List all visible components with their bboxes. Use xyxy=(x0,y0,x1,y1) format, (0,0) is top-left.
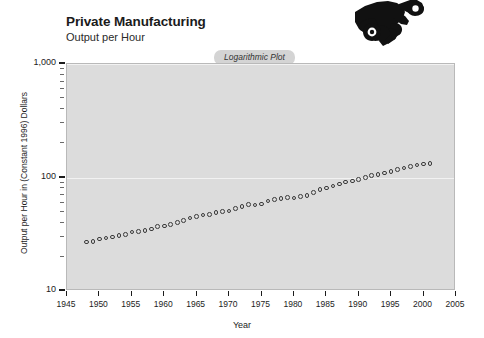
x-tick-mark xyxy=(358,291,359,296)
page-title: Private Manufacturing xyxy=(66,14,206,29)
data-point xyxy=(227,209,232,214)
data-point xyxy=(285,195,290,200)
data-point xyxy=(428,161,433,166)
x-tick-mark xyxy=(163,291,164,296)
gridline xyxy=(67,64,454,65)
data-point xyxy=(305,193,310,198)
data-point xyxy=(272,197,277,202)
data-point xyxy=(350,179,355,184)
x-tick-mark xyxy=(131,291,132,296)
data-point xyxy=(402,166,407,171)
y-tick-mark xyxy=(59,289,65,291)
data-point xyxy=(253,203,258,208)
y-tick-minor xyxy=(60,182,64,183)
data-point xyxy=(233,206,238,211)
y-tick-minor xyxy=(60,68,64,69)
data-point xyxy=(143,228,148,233)
data-point xyxy=(194,214,199,219)
plot-area xyxy=(66,63,455,290)
y-tick-minor xyxy=(60,81,64,82)
y-axis-label: Output per Hour in (Constant 1996) Dolla… xyxy=(19,63,29,283)
data-point xyxy=(337,182,342,187)
x-tick-mark xyxy=(325,291,326,296)
y-tick-minor xyxy=(60,108,64,109)
data-point xyxy=(369,173,374,178)
data-point xyxy=(91,239,96,244)
y-tick-minor xyxy=(60,74,64,75)
data-point xyxy=(149,227,154,232)
y-tick-minor xyxy=(60,97,64,98)
data-point xyxy=(220,209,225,214)
data-point xyxy=(162,224,167,229)
data-point xyxy=(298,194,303,199)
x-tick-label: 2005 xyxy=(435,299,475,309)
hand-holding-wrench-icon xyxy=(355,0,430,50)
data-point xyxy=(84,240,89,245)
data-point xyxy=(188,216,193,221)
x-tick-mark xyxy=(455,291,456,296)
data-point xyxy=(318,187,323,192)
x-tick-mark xyxy=(293,291,294,296)
data-point xyxy=(279,196,284,201)
data-point xyxy=(343,180,348,185)
data-point xyxy=(214,210,219,215)
data-point xyxy=(324,186,329,191)
data-point xyxy=(356,177,361,182)
gridline xyxy=(67,178,454,179)
data-point xyxy=(136,229,141,234)
y-tick-minor xyxy=(60,142,64,143)
y-tick-minor xyxy=(60,211,64,212)
data-point xyxy=(97,237,102,242)
y-tick-minor xyxy=(60,256,64,257)
data-point xyxy=(123,232,128,237)
data-point xyxy=(201,213,206,218)
data-point xyxy=(266,199,271,204)
y-tick-minor xyxy=(60,187,64,188)
x-tick-mark xyxy=(423,291,424,296)
data-point xyxy=(292,196,297,201)
data-point xyxy=(117,233,122,238)
data-point xyxy=(408,164,413,169)
data-point xyxy=(259,202,264,207)
chart-page: Private Manufacturing Output per Hour Lo… xyxy=(0,0,484,338)
y-tick-mark xyxy=(59,62,65,64)
data-point xyxy=(168,222,173,227)
data-point xyxy=(240,204,245,209)
data-point xyxy=(376,172,381,177)
data-point xyxy=(246,202,251,207)
y-tick-minor xyxy=(60,202,64,203)
y-tick-minor xyxy=(60,88,64,89)
x-tick-mark xyxy=(390,291,391,296)
data-point xyxy=(155,224,160,229)
y-tick-minor xyxy=(60,194,64,195)
x-tick-mark xyxy=(228,291,229,296)
y-tick-minor xyxy=(60,222,64,223)
x-tick-mark xyxy=(66,291,67,296)
data-point xyxy=(175,220,180,225)
y-tick-label: 10 xyxy=(0,284,56,294)
data-point xyxy=(104,236,109,241)
x-tick-mark xyxy=(98,291,99,296)
data-point xyxy=(363,175,368,180)
data-point xyxy=(110,235,115,240)
data-point xyxy=(181,218,186,223)
data-point xyxy=(207,212,212,217)
data-point xyxy=(389,169,394,174)
data-point xyxy=(395,167,400,172)
x-axis-label: Year xyxy=(0,320,484,330)
data-point xyxy=(415,163,420,168)
x-tick-mark xyxy=(261,291,262,296)
data-point xyxy=(331,184,336,189)
data-point xyxy=(421,162,426,167)
y-tick-minor xyxy=(60,236,64,237)
data-point xyxy=(130,230,135,235)
y-tick-minor xyxy=(60,122,64,123)
page-subtitle: Output per Hour xyxy=(66,31,145,43)
x-tick-mark xyxy=(196,291,197,296)
data-point xyxy=(311,190,316,195)
y-tick-mark xyxy=(59,176,65,178)
data-point xyxy=(382,171,387,176)
